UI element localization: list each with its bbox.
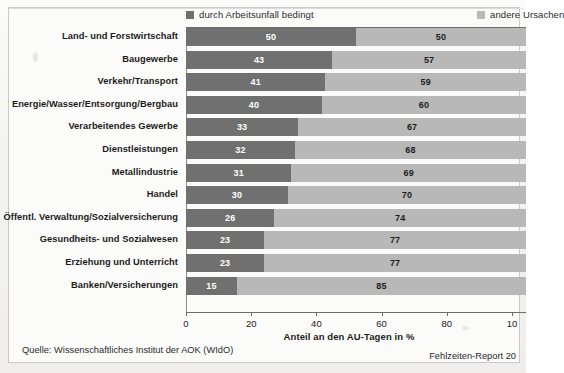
category-label: Öffentl. Verwaltung/Sozialversicherung xyxy=(4,208,178,226)
x-axis-tick xyxy=(382,312,383,316)
bar-segment-other[interactable]: 77 xyxy=(264,254,526,272)
category-label: Verkehr/Transport xyxy=(98,72,178,90)
bar-segment-accident[interactable]: 30 xyxy=(186,186,288,204)
bar-row[interactable]: 3070 xyxy=(186,186,526,204)
category-label: Verarbeitendes Gewerbe xyxy=(68,117,178,135)
x-axis-tick xyxy=(251,312,252,316)
bar-segment-accident[interactable]: 23 xyxy=(186,231,264,249)
category-label: Baugewerbe xyxy=(122,50,178,68)
category-label: Gesundheits- und Sozialwesen xyxy=(40,230,178,248)
legend-label: durch Arbeitsunfall bedingt xyxy=(199,9,314,20)
bar-segment-other[interactable]: 69 xyxy=(291,164,526,182)
bar-segment-accident[interactable]: 41 xyxy=(186,73,325,91)
legend-item[interactable]: andere Ursachen xyxy=(477,9,564,20)
bar-segment-other[interactable]: 59 xyxy=(325,73,526,91)
bar-segment-other[interactable]: 85 xyxy=(237,277,526,295)
category-label: Banken/Versicherungen xyxy=(71,276,178,294)
bar-row[interactable]: 5050 xyxy=(186,28,526,46)
legend-swatch-icon xyxy=(186,11,194,19)
x-axis-line xyxy=(186,312,526,313)
x-axis-tick-label: 0 xyxy=(183,318,188,329)
bar-row[interactable]: 2377 xyxy=(186,231,526,249)
bar-segment-accident[interactable]: 32 xyxy=(186,141,295,159)
bar-segment-other[interactable]: 77 xyxy=(264,231,526,249)
x-axis-tick-label: 20 xyxy=(246,318,257,329)
bar-segment-accident[interactable]: 23 xyxy=(186,254,264,272)
bar-segment-accident[interactable]: 15 xyxy=(186,277,237,295)
category-axis-labels: Land- und ForstwirtschaftBaugewerbeVerke… xyxy=(0,27,182,311)
bar-segment-other[interactable]: 50 xyxy=(356,28,526,46)
legend-swatch-icon xyxy=(477,11,485,19)
legend-label: andere Ursachen xyxy=(490,9,564,20)
bar-segment-accident[interactable]: 43 xyxy=(186,51,332,69)
bar-segment-accident[interactable]: 26 xyxy=(186,209,274,227)
chart-legend: durch Arbeitsunfall bedingtandere Ursach… xyxy=(186,9,522,25)
bar-row[interactable]: 2674 xyxy=(186,209,526,227)
report-note: Fehlzeiten-Report 20 xyxy=(429,351,516,361)
x-axis-tick xyxy=(186,312,187,316)
bar-row[interactable]: 3169 xyxy=(186,164,526,182)
bar-row[interactable]: 4357 xyxy=(186,51,526,69)
source-note: Quelle: Wissenschaftliches Institut der … xyxy=(22,345,233,355)
bar-row[interactable]: 4159 xyxy=(186,73,526,91)
x-axis-tick-label: 60 xyxy=(376,318,387,329)
bar-segment-other[interactable]: 60 xyxy=(322,96,526,114)
x-axis-tick-label: 80 xyxy=(442,318,453,329)
bar-segment-accident[interactable]: 31 xyxy=(186,164,291,182)
bar-segment-other[interactable]: 70 xyxy=(288,186,526,204)
legend-item[interactable]: durch Arbeitsunfall bedingt xyxy=(186,9,314,20)
plot-area: 5050435741594060336732683169307026742377… xyxy=(186,27,526,311)
bar-segment-other[interactable]: 57 xyxy=(332,51,526,69)
bar-row[interactable]: 3367 xyxy=(186,118,526,136)
category-label: Energie/Wasser/Entsorgung/Bergbau xyxy=(12,95,178,113)
bar-row[interactable]: 2377 xyxy=(186,254,526,272)
bar-segment-other[interactable]: 74 xyxy=(274,209,526,227)
x-axis-tick xyxy=(316,312,317,316)
bar-segment-accident[interactable]: 40 xyxy=(186,96,322,114)
x-axis-tick xyxy=(512,312,513,316)
category-label: Metallindustrie xyxy=(112,163,178,181)
bar-row[interactable]: 3268 xyxy=(186,141,526,159)
bar-segment-accident[interactable]: 50 xyxy=(186,28,356,46)
category-label: Erziehung und Unterricht xyxy=(65,253,178,271)
x-axis-title: Anteil an den AU-Tagen in % xyxy=(186,331,512,342)
bar-segment-other[interactable]: 67 xyxy=(298,118,526,136)
x-axis-tick-label: 10 xyxy=(507,318,518,329)
category-label: Dienstleistungen xyxy=(102,140,178,158)
x-axis-tick-label: 40 xyxy=(311,318,322,329)
bar-row[interactable]: 4060 xyxy=(186,96,526,114)
category-label: Land- und Forstwirtschaft xyxy=(62,27,178,45)
bar-row[interactable]: 1585 xyxy=(186,277,526,295)
bar-segment-other[interactable]: 68 xyxy=(295,141,526,159)
bar-segment-accident[interactable]: 33 xyxy=(186,118,298,136)
category-label: Handel xyxy=(147,185,178,203)
x-axis-tick xyxy=(447,312,448,316)
